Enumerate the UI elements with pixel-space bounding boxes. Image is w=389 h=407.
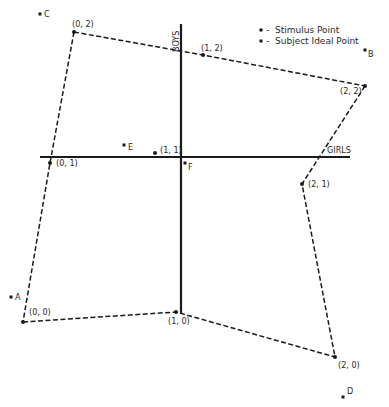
stimulus-point <box>201 53 205 57</box>
stimulus-point-label: (0, 2) <box>72 19 94 29</box>
stimulus-point <box>153 151 157 155</box>
subject-ideal-point <box>342 396 345 399</box>
stimulus-point-label: (2, 1) <box>308 179 330 189</box>
grid-col-0 <box>23 32 74 322</box>
stimulus-point-label: (1, 2) <box>201 43 223 53</box>
subject-point-label: B <box>368 49 374 59</box>
subject-ideal-point <box>123 144 126 147</box>
stimulus-point <box>72 30 76 34</box>
boys-axis-label: BOYS <box>171 31 181 52</box>
stimulus-point-label: (1, 1) <box>160 145 182 155</box>
subject-point-label: E <box>128 142 133 152</box>
subject-point-label: F <box>188 162 193 172</box>
stimulus-point-label: (0, 0) <box>29 307 51 317</box>
subject-point-icon <box>260 40 263 43</box>
legend-dash-2: - <box>266 36 269 46</box>
stimulus-point <box>48 161 52 165</box>
stimulus-point <box>174 310 178 314</box>
legend-stimulus-label: Stimulus Point <box>275 25 340 35</box>
legend: - Stimulus Point - Subject Ideal Point <box>259 25 359 46</box>
stimulus-point-label: (0, 1) <box>56 158 78 168</box>
stimulus-grid <box>23 32 365 357</box>
subject-point-label: D <box>347 386 353 396</box>
legend-dash-1: - <box>266 25 269 35</box>
ideal-point-diagram: BOYS GIRLS - Stimulus Point - Subject Id… <box>0 0 389 407</box>
stimulus-point <box>333 355 337 359</box>
subject-ideal-point <box>184 162 187 165</box>
subject-ideal-point <box>39 13 42 16</box>
stimulus-point-icon <box>259 28 263 32</box>
stimulus-point <box>300 182 304 186</box>
stimulus-point-label: (1, 0) <box>168 316 190 326</box>
subject-point-label: C <box>44 9 50 19</box>
subject-ideal-point <box>364 49 367 52</box>
stimulus-point-label: (2, 2) <box>340 86 362 96</box>
legend-subject-label: Subject Ideal Point <box>275 36 359 46</box>
stimulus-point-label: (2, 0) <box>338 360 360 370</box>
stimulus-point <box>21 320 25 324</box>
grid-col-2 <box>302 86 365 357</box>
subject-ideal-points: ABCDEF <box>10 9 374 399</box>
subject-ideal-point <box>10 296 13 299</box>
subject-point-label: A <box>15 292 21 302</box>
girls-axis-label: GIRLS <box>327 145 351 155</box>
stimulus-point <box>363 84 367 88</box>
stimulus-points: (0, 2)(1, 2)(2, 2)(0, 1)(1, 1)(2, 1)(0, … <box>21 19 367 370</box>
